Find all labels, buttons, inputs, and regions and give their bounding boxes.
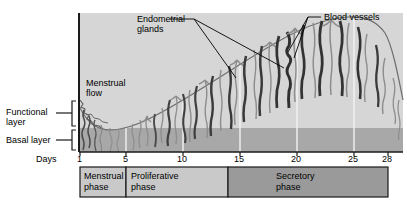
axis-tick-label: 20: [291, 154, 301, 164]
axis-tick-label: 5: [123, 154, 128, 164]
phase-label-proliferative: Proliferative phase: [131, 171, 227, 192]
blood-vessels-label: Blood vessels: [324, 12, 380, 22]
functional-layer-label: Functional layer: [6, 107, 58, 127]
phase-label-secretory: Secretory phase: [276, 171, 346, 192]
axis-tick-label: 1: [77, 154, 82, 164]
axis-tick-label: 28: [382, 154, 392, 164]
phase-label-menstrual: Menstrual phase: [84, 171, 128, 192]
axis-tick-label: 25: [348, 154, 358, 164]
menstrual-flow-label: Menstrual flow: [86, 78, 141, 98]
endometrial-glands-label: Endometrial glands: [137, 14, 197, 34]
axis-tick-label: 15: [234, 154, 244, 164]
endometrial-cycle-figure: Endometrial glands Blood vessels Menstru…: [0, 0, 407, 206]
days-axis-label: Days: [36, 154, 57, 164]
axis-tick-label: 10: [177, 154, 187, 164]
layer-brackets: [56, 101, 76, 150]
basal-layer-label: Basal layer: [6, 135, 58, 145]
